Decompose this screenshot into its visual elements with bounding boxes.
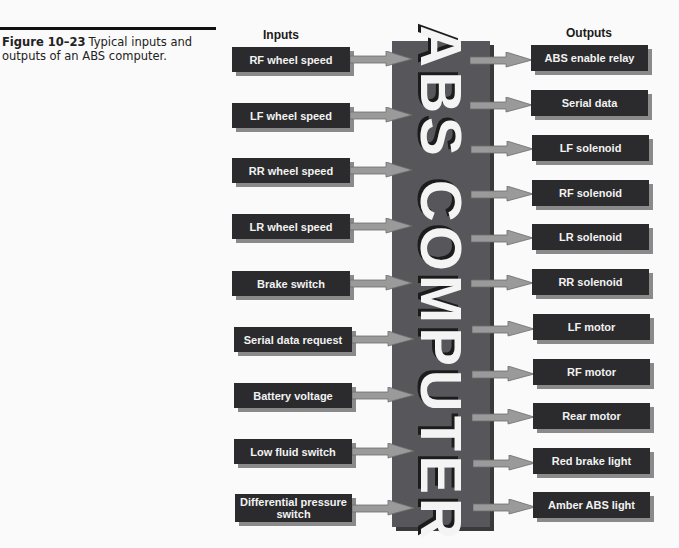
output-box-rr-solenoid: RR solenoid	[532, 269, 649, 295]
arrow-icon	[472, 366, 534, 384]
output-box-lr-solenoid: LR solenoid	[532, 224, 649, 250]
output-box-amber-abs-light: Amber ABS light	[533, 492, 650, 518]
input-box-rf-wheel-speed: RF wheel speed	[232, 47, 350, 72]
input-box-brake-switch: Brake switch	[232, 271, 350, 296]
output-label: Rear motor	[562, 410, 621, 422]
output-box-serial-data: Serial data	[531, 90, 648, 116]
arrow-icon	[471, 275, 533, 293]
output-box-rear-motor: Rear motor	[533, 403, 650, 429]
arrow-icon	[470, 52, 532, 70]
caption-rule	[0, 27, 216, 30]
arrow-icon	[350, 107, 412, 125]
output-label: RF solenoid	[559, 187, 622, 199]
input-box-rr-wheel-speed: RR wheel speed	[232, 158, 350, 183]
input-label: RF wheel speed	[249, 54, 332, 66]
arrow-icon	[350, 275, 412, 293]
input-label: Serial data request	[244, 334, 342, 346]
arrow-icon	[350, 162, 412, 180]
output-label: RR solenoid	[558, 276, 622, 288]
output-label: ABS enable relay	[545, 52, 635, 64]
input-box-differential-pressure-switch: Differential pressure switch	[235, 494, 352, 522]
arrow-icon	[352, 331, 414, 349]
output-label: LF motor	[568, 321, 616, 333]
input-label: Low fluid switch	[250, 446, 336, 458]
arrow-icon	[471, 230, 533, 248]
input-label: LR wheel speed	[249, 221, 332, 233]
arrow-icon	[473, 499, 535, 517]
output-box-red-brake-light: Red brake light	[533, 448, 650, 474]
arrow-icon	[352, 443, 414, 461]
arrow-icon	[471, 186, 533, 204]
arrow-icon	[471, 141, 533, 159]
output-label: Red brake light	[552, 455, 631, 467]
input-box-low-fluid-switch: Low fluid switch	[234, 439, 352, 464]
output-box-lf-solenoid: LF solenoid	[532, 135, 649, 161]
input-box-battery-voltage: Battery voltage	[234, 383, 352, 408]
arrow-icon	[472, 409, 534, 427]
arrow-icon	[352, 387, 414, 405]
arrow-icon	[350, 51, 412, 69]
arrow-icon	[350, 218, 412, 236]
output-label: RF motor	[567, 366, 616, 378]
input-label: Brake switch	[257, 278, 325, 290]
arrow-icon	[470, 97, 532, 115]
abs-computer-label: ABS COMPUTER	[408, 25, 475, 543]
output-box-abs-enable-relay: ABS enable relay	[531, 45, 648, 71]
input-label: Differential pressure switch	[238, 496, 349, 520]
figure-number: Figure 10–23	[2, 35, 85, 49]
input-box-serial-data-request: Serial data request	[234, 327, 352, 352]
inputs-header: Inputs	[263, 28, 299, 42]
input-label: Battery voltage	[253, 390, 332, 402]
output-label: Serial data	[562, 97, 618, 109]
outputs-header: Outputs	[566, 26, 612, 40]
output-label: LF solenoid	[560, 142, 622, 154]
arrow-icon	[472, 321, 534, 339]
input-label: RR wheel speed	[249, 165, 333, 177]
arrow-icon	[473, 455, 535, 473]
output-label: LR solenoid	[559, 231, 622, 243]
output-box-rf-motor: RF motor	[533, 359, 650, 385]
arrow-icon	[352, 500, 414, 518]
output-box-lf-motor: LF motor	[533, 314, 650, 340]
input-box-lf-wheel-speed: LF wheel speed	[232, 103, 350, 128]
output-label: Amber ABS light	[548, 499, 635, 511]
output-box-rf-solenoid: RF solenoid	[532, 180, 649, 206]
input-label: LF wheel speed	[250, 110, 332, 122]
figure-caption: Figure 10–23Typical inputs and outputs o…	[2, 35, 222, 63]
input-box-lr-wheel-speed: LR wheel speed	[232, 214, 350, 239]
